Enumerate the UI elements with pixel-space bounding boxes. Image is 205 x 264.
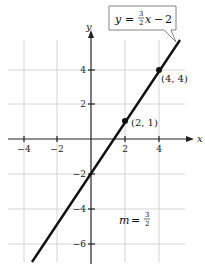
y-axis-label: y [85,21,92,32]
svg-text:2: 2 [165,13,172,26]
x-tick-label: 4 [156,144,162,154]
svg-text:=: = [125,13,134,26]
svg-text:3: 3 [139,10,143,18]
x-tick-label: −2 [50,144,63,154]
y-tick-label: −4 [73,204,87,214]
x-tick-label: 2 [122,144,128,154]
y-tick-label: −6 [73,239,87,249]
svg-text:3: 3 [145,211,149,219]
x-axis-arrow-icon [186,136,194,142]
point-label: (4, 4) [161,73,188,84]
y-tick-label: 4 [80,65,86,75]
svg-text:m: m [119,214,129,227]
x-axis-label: x [197,133,203,144]
y-tick-label: 2 [80,99,86,109]
equation-callout: y = 3 2 x − 2 [109,6,176,42]
svg-text:2: 2 [145,220,149,228]
point-2-1 [122,118,128,124]
svg-text:y: y [114,13,122,26]
svg-text:−: − [154,13,163,26]
chart: x y −4 −2 2 4 4 2 −2 −4 −6 (2, 1) (4, 4)… [0,0,205,264]
svg-text:x: x [145,13,152,26]
x-tick-label: −4 [17,144,31,154]
y-tick-label: −2 [73,169,86,179]
point-label: (2, 1) [131,117,158,128]
svg-text:2: 2 [139,19,143,27]
slope-annotation: m = 3 2 [119,211,150,228]
svg-text:=: = [131,214,140,227]
